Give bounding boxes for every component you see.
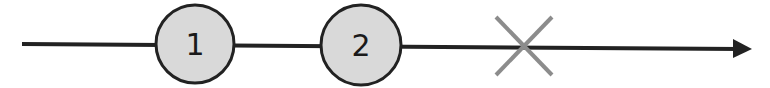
timeline-arrowhead-icon: [733, 39, 752, 58]
node-2-label: 2: [351, 28, 370, 63]
marble-diagram: 1 2: [0, 0, 770, 88]
node-1-label: 1: [185, 27, 204, 62]
node-2: 2: [321, 5, 401, 85]
node-1: 1: [156, 5, 234, 83]
